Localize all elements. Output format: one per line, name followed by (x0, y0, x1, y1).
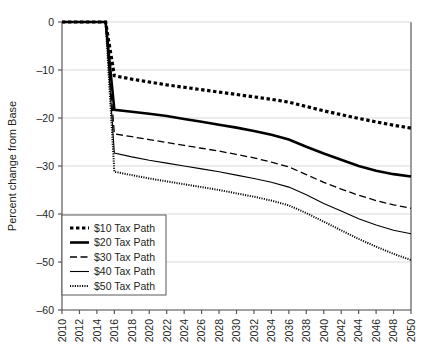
x-tick-label: 2044 (352, 319, 364, 343)
x-tick-label: 2036 (283, 319, 295, 343)
x-tick-label: 2016 (108, 319, 120, 343)
x-tick-label: 2034 (265, 319, 277, 343)
legend-label: $30 Tax Path (94, 251, 155, 263)
y-axis-tick-labels: 0–10–20–30–40–50–60 (36, 16, 54, 316)
x-tick-label: 2046 (370, 319, 382, 343)
y-tick-label: –20 (36, 112, 54, 124)
legend-label: $50 Tax Path (94, 280, 155, 292)
x-tick-label: 2026 (195, 319, 207, 343)
x-tick-label: 2024 (178, 319, 190, 343)
line-chart: 0–10–20–30–40–50–60 20102012201420162018… (0, 0, 435, 352)
series-line (62, 22, 411, 208)
legend-label: $10 Tax Path (94, 222, 155, 234)
y-tick-label: –60 (36, 304, 54, 316)
x-tick-label: 2020 (143, 319, 155, 343)
x-tick-label: 2042 (335, 319, 347, 343)
y-tick-label: –40 (36, 208, 54, 220)
x-tick-label: 2040 (318, 319, 330, 343)
series-line (62, 22, 411, 128)
x-tick-label: 2012 (73, 319, 85, 343)
y-tick-label: –10 (36, 64, 54, 76)
x-tick-label: 2050 (405, 319, 417, 343)
legend-label: $20 Tax Path (94, 236, 155, 248)
y-axis-title: Percent change from Base (6, 101, 18, 231)
y-tick-label: 0 (48, 16, 54, 28)
y-tick-label: –30 (36, 160, 54, 172)
x-tick-label: 2048 (387, 319, 399, 343)
x-tick-label: 2032 (248, 319, 260, 343)
y-axis-title-text: Percent change from Base (6, 101, 18, 231)
chart-container: 0–10–20–30–40–50–60 20102012201420162018… (0, 0, 435, 352)
x-tick-label: 2028 (213, 319, 225, 343)
y-tick-label: –50 (36, 256, 54, 268)
chart-legend: $10 Tax Path$20 Tax Path$30 Tax Path$40 … (62, 215, 166, 295)
x-tick-label: 2018 (126, 319, 138, 343)
x-tick-label: 2014 (91, 319, 103, 343)
x-tick-label: 2010 (56, 319, 68, 343)
x-tick-label: 2030 (230, 319, 242, 343)
x-tick-label: 2022 (161, 319, 173, 343)
legend-label: $40 Tax Path (94, 265, 155, 277)
x-axis-tick-labels: 2010201220142016201820202022202420262028… (56, 319, 417, 343)
x-tick-label: 2038 (300, 319, 312, 343)
